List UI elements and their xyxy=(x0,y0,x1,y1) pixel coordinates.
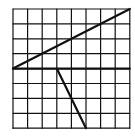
grid-diagram xyxy=(0,0,135,136)
